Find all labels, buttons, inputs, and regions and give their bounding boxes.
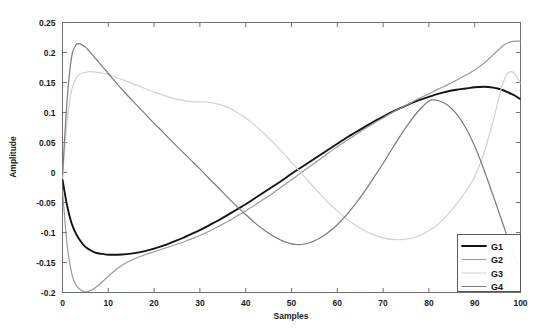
x-tick-label: 80 xyxy=(424,298,434,308)
y-tick-label: 0 xyxy=(51,168,56,178)
x-axis-title: Samples xyxy=(274,311,309,321)
chart-figure: 0102030405060708090100 -0.2-0.15-0.1-0.0… xyxy=(0,0,536,336)
x-tick-label: 20 xyxy=(149,298,159,308)
x-tick-label: 30 xyxy=(195,298,205,308)
x-tick-label: 50 xyxy=(287,298,297,308)
y-axis-title: Amplitude xyxy=(8,136,18,178)
x-tick-label: 60 xyxy=(333,298,343,308)
y-tick-label: -0.1 xyxy=(41,228,56,238)
y-tick-label: 0.2 xyxy=(44,48,56,58)
y-tick-label: -0.2 xyxy=(41,288,56,298)
y-tick-label: -0.15 xyxy=(36,258,56,268)
legend-box xyxy=(458,235,521,292)
x-tick-label: 100 xyxy=(513,298,527,308)
legend-label-g1: G1 xyxy=(491,242,503,252)
figure-background xyxy=(0,0,536,336)
x-tick-label: 40 xyxy=(241,298,251,308)
legend-label-g3: G3 xyxy=(491,269,503,279)
y-tick-label: -0.05 xyxy=(36,198,56,208)
legend-label-g2: G2 xyxy=(491,255,503,265)
y-tick-label: 0.25 xyxy=(39,18,56,28)
y-tick-label: 0.15 xyxy=(39,78,56,88)
x-tick-label: 90 xyxy=(470,298,480,308)
legend-label-g4: G4 xyxy=(491,282,503,292)
chart-legend[interactable]: G1G2G3G4 xyxy=(458,235,521,293)
x-tick-label: 0 xyxy=(60,298,65,308)
amplitude-vs-samples-chart: 0102030405060708090100 -0.2-0.15-0.1-0.0… xyxy=(0,0,536,336)
y-tick-label: 0.1 xyxy=(44,108,56,118)
x-tick-label: 70 xyxy=(378,298,388,308)
x-tick-label: 10 xyxy=(104,298,114,308)
y-tick-label: 0.05 xyxy=(39,138,56,148)
